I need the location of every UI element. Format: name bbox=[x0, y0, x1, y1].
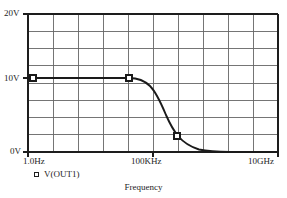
y-axis-ticks bbox=[23, 14, 28, 152]
data-marker bbox=[126, 75, 132, 81]
x-axis-label-mid: 100KHz bbox=[131, 156, 162, 166]
probe-plot-window: 20V 10V 0V 1.0Hz 100KHz 10GHz V(OUT1) Fr… bbox=[0, 0, 287, 198]
y-axis-label-top: 20V bbox=[4, 8, 20, 18]
legend-label-v-out1: V(OUT1) bbox=[44, 169, 80, 179]
trace-markers bbox=[30, 75, 180, 139]
x-axis-label-left: 1.0Hz bbox=[23, 156, 45, 166]
legend[interactable]: V(OUT1) bbox=[34, 169, 80, 179]
square-marker-icon bbox=[34, 172, 39, 177]
x-axis-label-right: 10GHz bbox=[248, 156, 274, 166]
data-marker bbox=[30, 75, 36, 81]
y-axis-label-bottom: 0V bbox=[10, 146, 21, 156]
data-marker bbox=[174, 133, 180, 139]
x-axis-title: Frequency bbox=[0, 182, 287, 192]
y-axis-label-mid: 10V bbox=[4, 73, 20, 83]
